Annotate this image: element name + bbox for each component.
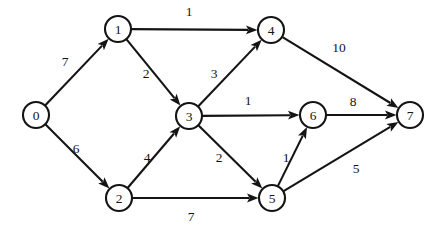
edge-weight-label: 1 (283, 150, 290, 165)
edge-weight-label: 7 (188, 209, 195, 224)
edge-weight-label: 4 (144, 150, 151, 165)
edge-line (203, 115, 291, 116)
edge-weight-label: 5 (353, 161, 360, 176)
graph-edge-5-to-7 (284, 122, 399, 191)
graph-edge-1-to-3 (127, 39, 181, 105)
edge-weight-label: 1 (186, 4, 193, 19)
graph-node-5[interactable]: 5 (259, 185, 285, 211)
edge-weight-label: 2 (143, 66, 150, 81)
graph-edge-3-to-4 (198, 40, 261, 106)
node-label: 6 (310, 108, 317, 123)
graph-edge-1-to-4 (132, 25, 258, 34)
graph-edge-3-to-6 (203, 111, 300, 120)
graph-node-1[interactable]: 1 (105, 16, 131, 42)
graph-canvas: 01234567 76123101842175 (0, 0, 443, 230)
node-label: 7 (407, 108, 414, 123)
graph-node-4[interactable]: 4 (258, 17, 284, 43)
graph-node-2[interactable]: 2 (106, 185, 132, 211)
graph-edge-0-to-1 (45, 39, 108, 105)
graph-node-6[interactable]: 6 (300, 102, 326, 128)
graph-edge-2-to-5 (133, 194, 259, 203)
edge-weight-label: 6 (73, 141, 80, 156)
edge-line (199, 125, 256, 181)
graph-node-3[interactable]: 3 (176, 103, 202, 129)
edge-weight-label: 8 (350, 94, 357, 109)
graph-edge-0-to-2 (46, 125, 110, 189)
node-label: 4 (268, 23, 275, 38)
graph-edge-6-to-7 (327, 111, 397, 120)
edge-weight-label: 2 (216, 150, 223, 165)
nodes-layer: 01234567 (23, 16, 423, 211)
graph-figure: 01234567 76123101842175 (0, 0, 443, 230)
edge-line (45, 46, 102, 106)
edge-weight-label: 10 (332, 40, 346, 55)
arrow-head-icon (386, 122, 398, 132)
edge-weight-label: 1 (245, 93, 252, 108)
node-label: 2 (116, 191, 123, 206)
graph-node-0[interactable]: 0 (23, 102, 49, 128)
node-label: 5 (269, 191, 276, 206)
edge-line (284, 127, 391, 191)
edge-weight-label: 3 (211, 66, 218, 81)
node-label: 0 (33, 108, 40, 123)
edge-line (128, 133, 174, 187)
node-label: 3 (186, 109, 193, 124)
graph-edge-2-to-3 (128, 126, 180, 187)
arrow-head-icon (386, 98, 398, 108)
graph-node-7[interactable]: 7 (397, 102, 423, 128)
edge-weight-label: 7 (62, 54, 69, 69)
edge-line (132, 29, 249, 30)
graph-edge-3-to-5 (199, 125, 263, 188)
edge-line (127, 39, 175, 98)
node-label: 1 (115, 22, 122, 37)
